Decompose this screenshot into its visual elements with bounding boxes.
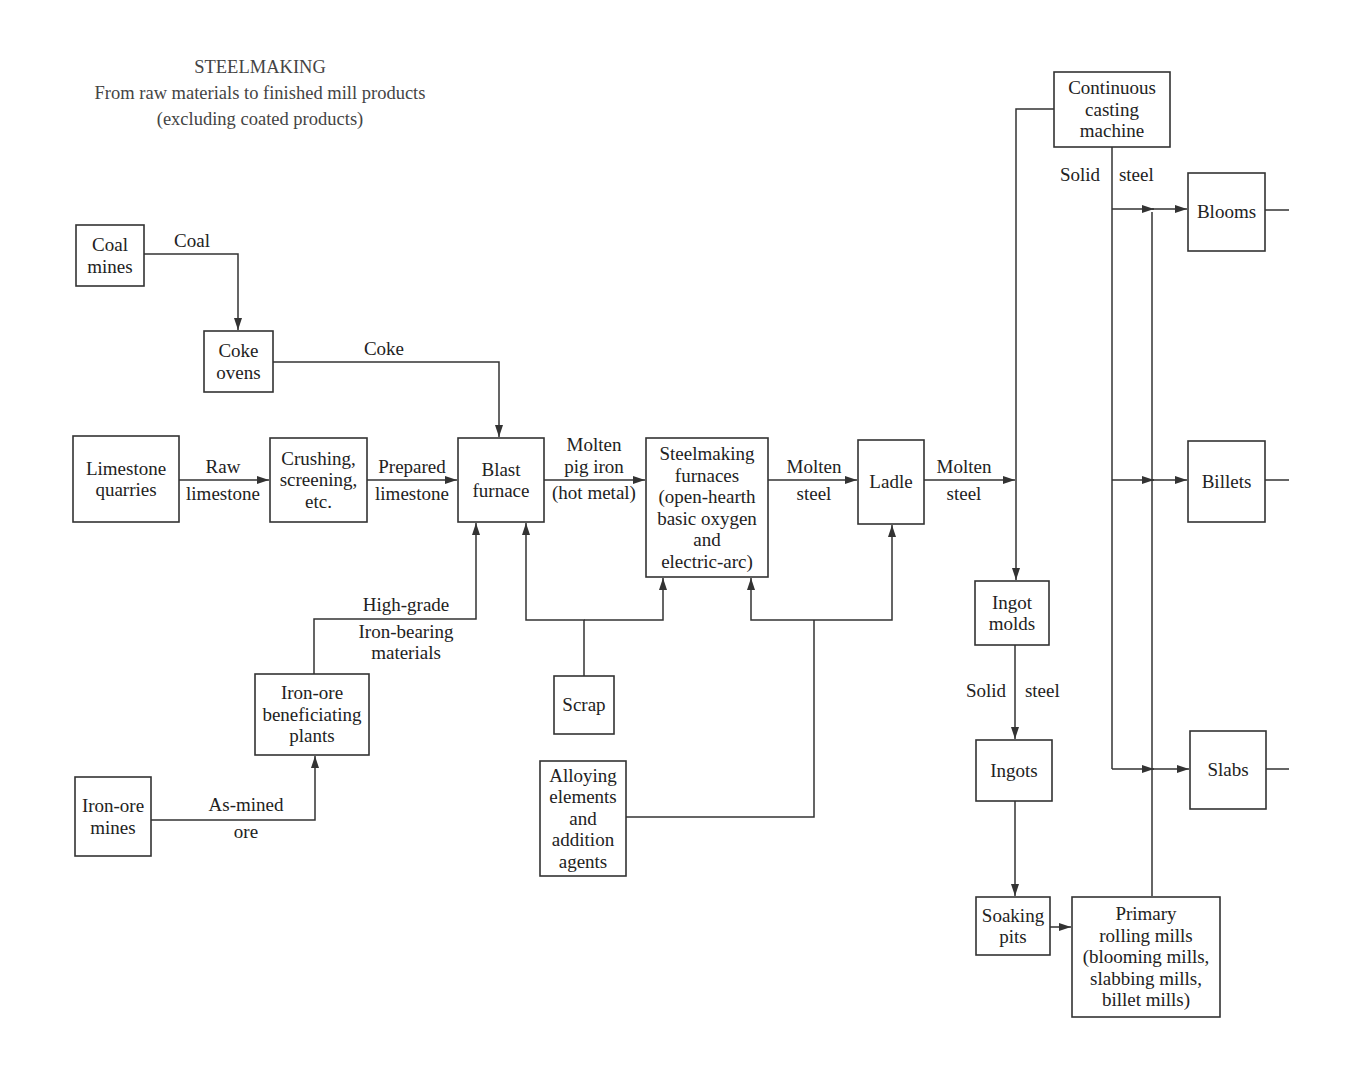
node-billets: Billets [1188,441,1265,522]
label-line: (hot metal) [543,482,645,504]
label-line: slabbing mills, [1090,968,1202,990]
node-coke-ovens: Coke ovens [204,331,273,392]
casting-to-ingot-connector [1016,109,1054,580]
node-continuous-casting: Continuous casting machine [1054,72,1170,147]
edge-label-molten-pig-iron: Molten pig iron (hot metal) [543,434,645,504]
label-line: Molten [772,456,856,478]
label-line: Prepared [366,456,458,478]
label-line: and [569,808,596,830]
edge-label-molten-steel-1: Molten steel [772,456,856,504]
label-line: Continuous [1068,77,1156,99]
title-line-3: (excluding coated products) [60,106,460,132]
label-line: Molten [543,434,645,456]
label-line: Slabs [1207,759,1248,781]
label-line: steel [772,483,856,505]
node-alloying: Alloying elements and addition agents [540,761,626,876]
node-coal-mines: Coal mines [76,225,144,286]
label-line: Raw [178,456,268,478]
label-line: Crushing, [281,448,355,470]
label-word: steel [1025,680,1060,701]
label-line: pits [999,926,1026,948]
label-line: As-mined [196,794,296,816]
alloying-trunk [626,620,814,817]
label-line: Primary [1115,903,1176,925]
node-blooms: Blooms [1188,173,1265,251]
label-line: screening, [280,469,358,491]
node-primary-rolling-mills: Primary rolling mills (blooming mills, s… [1072,897,1220,1017]
edge-label-molten-steel-2: Molten steel [926,456,1002,504]
label-line: (open-hearth [658,486,755,508]
node-slabs: Slabs [1190,731,1266,809]
node-limestone-quarries: Limestone quarries [73,436,179,522]
label-line: Scrap [562,694,605,716]
node-blast-furnace: Blast furnace [458,438,544,522]
label-line: etc. [305,491,332,513]
title-line-1: STEELMAKING [60,54,460,80]
label-line: limestone [366,483,458,505]
node-iron-ore-mines: Iron-ore mines [75,777,151,856]
label-line: furnace [473,480,530,502]
diagram-title: STEELMAKING From raw materials to finish… [60,54,460,132]
label-line: beneficiating [262,704,361,726]
label-line: quarries [95,479,156,501]
label-line: Molten [926,456,1002,478]
label-line: machine [1080,120,1144,142]
label-line: Soaking [982,905,1044,927]
label-line: agents [559,851,608,873]
label-line: casting [1085,99,1139,121]
label-line: billet mills) [1102,989,1190,1011]
label-line: pig iron [543,456,645,478]
label-line: electric-arc) [661,551,753,573]
label-line: Ladle [869,471,912,493]
edge-label-coke: Coke [354,338,414,360]
label-line: elements [549,786,617,808]
edge-label-as-mined-ore: As-mined ore [196,794,296,842]
label-line: Coal [92,234,128,256]
label-line: Limestone [86,458,166,480]
node-ingot-molds: Ingot molds [975,581,1049,645]
edge-label-solid-steel-ingot: Solid steel [966,680,1066,702]
scrap-to-blast-connector [526,523,584,676]
edge-label-prepared-limestone: Prepared limestone [366,456,458,504]
node-ingots: Ingots [976,740,1052,801]
label-line: ovens [216,362,260,384]
label-line: materials [348,642,464,664]
alloying-to-steelmaking-connector [751,578,814,620]
label-line: Iron-bearing [348,621,464,643]
alloying-to-ladle-connector [814,525,892,620]
node-steelmaking-furnaces: Steelmaking furnaces (open-hearth basic … [646,438,768,577]
node-scrap: Scrap [554,676,614,734]
label-line: and [693,529,720,551]
node-soaking-pits: Soaking pits [976,897,1050,955]
label-line: Ingots [990,760,1038,782]
scrap-to-steelmaking-connector [584,578,663,620]
label-word: Solid [966,680,1006,701]
coke-connector [273,362,499,437]
edge-label-high-grade: High-grade Iron-bearing materials [348,594,464,664]
label-line: (blooming mills, [1083,946,1210,968]
label-line: Alloying [549,765,617,787]
label-line: High-grade [348,594,464,616]
label-line: Blast [481,459,520,481]
node-ladle: Ladle [858,440,924,524]
node-crushing: Crushing, screening, etc. [270,438,367,522]
label-line: Iron-ore [281,682,343,704]
coal-connector [144,254,238,330]
label-line: furnaces [675,465,739,487]
edge-label-raw-limestone: Raw limestone [178,456,268,504]
title-line-2: From raw materials to finished mill prod… [60,80,460,106]
label-line: Billets [1202,471,1252,493]
label-word: Solid [1060,164,1100,185]
label-line: Steelmaking [660,443,755,465]
edge-label-coal: Coal [162,230,222,252]
label-line: Ingot [992,592,1032,614]
label-line: ore [196,821,296,843]
label-line: Blooms [1197,201,1256,223]
label-line: mines [90,817,135,839]
label-line: plants [289,725,334,747]
label-line: steel [926,483,1002,505]
label-line: Iron-ore [82,795,144,817]
label-word: steel [1119,164,1154,185]
node-iron-ore-beneficiating: Iron-ore beneficiating plants [255,674,369,755]
label-line: mines [87,256,132,278]
